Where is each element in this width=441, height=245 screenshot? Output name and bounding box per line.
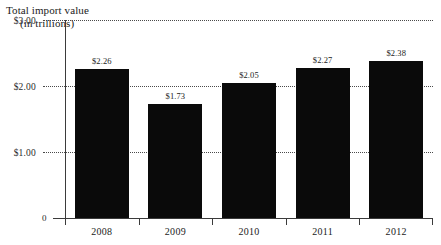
plot-area: $3.00 $2.00 $1.00 0 $2.26 $1.73 $2.05: [65, 20, 433, 218]
bar-value-2009: $1.73: [166, 91, 186, 101]
bar-2009[interactable]: [148, 104, 202, 218]
x-tick-5: [432, 218, 433, 225]
x-axis-label-2012: 2012: [386, 226, 407, 237]
bar-slot-2012: $2.38: [359, 20, 433, 218]
y-tick-label-zero: 0: [42, 213, 47, 223]
bar-slot-2011: $2.27: [286, 20, 360, 218]
bar-chart: Total import value (in trillions) $3.00 …: [0, 0, 441, 245]
bar-2008[interactable]: [75, 69, 129, 218]
x-tick-3: [286, 218, 287, 225]
y-tick-label-1: $1.00: [14, 148, 36, 158]
x-tick-4: [359, 218, 360, 225]
bar-2011[interactable]: [296, 68, 350, 218]
bar-slot-2009: $1.73: [139, 20, 213, 218]
bar-value-2008: $2.26: [92, 56, 112, 66]
x-axis-label-2010: 2010: [238, 226, 259, 237]
bar-slot-2010: $2.05: [212, 20, 286, 218]
bar-slot-2008: $2.26: [65, 20, 139, 218]
x-tick-2: [212, 218, 213, 225]
x-axis-label-2011: 2011: [312, 226, 333, 237]
x-axis-label-2008: 2008: [91, 226, 112, 237]
x-tick-1: [139, 218, 140, 225]
x-axis-line: [56, 218, 433, 219]
bar-series: $2.26 $1.73 $2.05 $2.27 $2.38: [65, 20, 433, 218]
y-tick-label-3: $3.00: [14, 16, 36, 26]
y-tick-label-2: $2.00: [14, 82, 36, 92]
bar-value-2010: $2.05: [239, 70, 259, 80]
y-tick-zero-mark: [53, 218, 61, 219]
x-tick-0: [65, 218, 66, 225]
bar-value-2011: $2.27: [313, 55, 333, 65]
bar-value-2012: $2.38: [386, 48, 406, 58]
bar-2012[interactable]: [369, 61, 423, 218]
bar-2010[interactable]: [222, 83, 276, 218]
x-axis-label-2009: 2009: [165, 226, 186, 237]
